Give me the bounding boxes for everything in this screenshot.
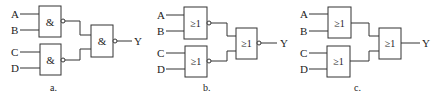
wire-g1-to-g3	[211, 23, 236, 36]
input-label-b: B	[157, 25, 164, 37]
wire-g2-to-g3	[65, 49, 91, 60]
output-label-y: Y	[134, 35, 142, 47]
circuit-a: A B C D & & & Y a.	[11, 6, 142, 93]
inversion-bubble-2	[61, 58, 65, 62]
circuit-c: A B C D ≥1 ≥1 ≥1 Y c.	[300, 7, 430, 93]
logic-circuit-figure: A B C D & & & Y a. A B C D	[0, 0, 436, 105]
wire-g1-to-g3	[351, 23, 379, 36]
caption-b: b.	[203, 82, 211, 93]
gate-1-symbol: ≥1	[190, 18, 201, 29]
gate-3-symbol: ≥1	[241, 38, 252, 49]
gate-1-symbol: &	[46, 16, 55, 28]
output-label-y: Y	[422, 37, 430, 49]
wire-g2-to-g3	[350, 51, 379, 61]
output-label-y: Y	[280, 37, 288, 49]
input-label-a: A	[11, 8, 19, 20]
wire-g2-to-g3	[211, 51, 236, 61]
gate-1-symbol: ≥1	[334, 18, 345, 29]
input-label-d: D	[157, 63, 165, 75]
gate-2-symbol: ≥1	[333, 56, 344, 67]
gate-3-symbol: ≥1	[385, 38, 396, 49]
input-label-d: D	[300, 63, 308, 75]
input-label-c: C	[157, 47, 164, 59]
inversion-bubble-1	[61, 19, 65, 23]
input-label-a: A	[300, 8, 308, 20]
input-label-d: D	[11, 62, 19, 74]
circuit-b: A B C D ≥1 ≥1 ≥1 Y b.	[157, 7, 288, 93]
gate-2-symbol: ≥1	[191, 56, 202, 67]
inversion-bubble-3	[257, 41, 261, 45]
caption-c: c.	[354, 82, 361, 93]
input-label-a: A	[157, 9, 165, 21]
input-label-b: B	[11, 24, 18, 36]
gate-3-symbol: &	[98, 35, 107, 47]
caption-a: a.	[50, 82, 57, 93]
wire-g1-to-g3	[65, 21, 91, 35]
input-label-c: C	[11, 46, 18, 58]
gate-2-symbol: &	[46, 54, 55, 66]
input-label-b: B	[300, 25, 307, 37]
inversion-bubble-3	[113, 39, 117, 43]
inversion-bubble-2	[207, 59, 211, 63]
inversion-bubble-1	[207, 21, 211, 25]
input-label-c: C	[300, 47, 307, 59]
